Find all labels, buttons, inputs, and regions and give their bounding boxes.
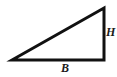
triangle-graphic bbox=[0, 0, 117, 77]
triangle-figure: H B bbox=[0, 0, 117, 77]
height-label: H bbox=[106, 26, 115, 38]
base-label: B bbox=[61, 62, 69, 74]
